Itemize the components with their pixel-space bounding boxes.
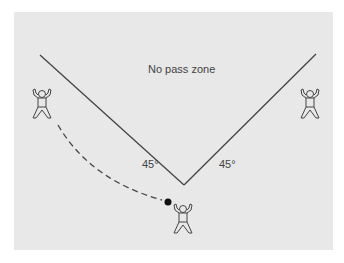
right-player-icon bbox=[301, 89, 319, 118]
bottom-player-icon bbox=[174, 204, 192, 233]
no-pass-zone-label: No pass zone bbox=[148, 63, 215, 75]
right-angle-label: 45° bbox=[219, 158, 236, 170]
ball-icon bbox=[165, 199, 172, 206]
left-angle-label: 45° bbox=[142, 158, 159, 170]
left-player-icon bbox=[33, 89, 51, 118]
diagram-canvas bbox=[0, 0, 344, 263]
